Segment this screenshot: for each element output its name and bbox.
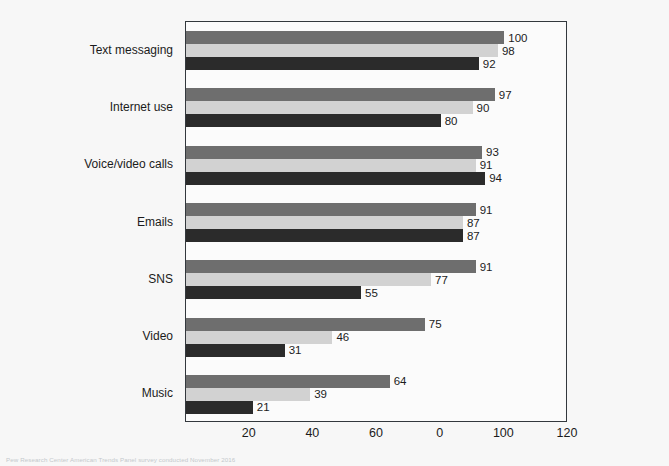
bar-value-label: 75 bbox=[425, 318, 442, 330]
bar-value-label: 21 bbox=[253, 401, 270, 413]
bar-value-label: 98 bbox=[498, 45, 515, 57]
bar bbox=[186, 401, 253, 414]
bar-value-label: 90 bbox=[473, 102, 490, 114]
x-axis-tick-label: 120 bbox=[557, 426, 578, 440]
bar bbox=[186, 273, 431, 286]
chart-footnote: Pew Research Center American Trends Pane… bbox=[6, 456, 235, 463]
bar bbox=[186, 88, 495, 101]
bar-value-label: 77 bbox=[431, 274, 448, 286]
bar-value-label: 80 bbox=[441, 115, 458, 127]
bar bbox=[186, 344, 285, 357]
bar bbox=[186, 203, 476, 216]
bar bbox=[186, 260, 476, 273]
bar bbox=[186, 229, 463, 242]
x-axis-tick-label: 60 bbox=[369, 426, 383, 440]
bar bbox=[186, 31, 504, 44]
bar-row: 39 bbox=[186, 388, 568, 401]
bar bbox=[186, 146, 482, 159]
bar-row: 55 bbox=[186, 286, 568, 299]
x-axis-tick-label: 100 bbox=[493, 426, 514, 440]
category-label: SNS bbox=[148, 272, 173, 286]
category-label: Voice/video calls bbox=[84, 157, 173, 171]
bar-value-label: 91 bbox=[476, 204, 493, 216]
bar bbox=[186, 114, 441, 127]
bar-row: 91 bbox=[186, 260, 568, 273]
bar-row: 97 bbox=[186, 88, 568, 101]
x-axis-tick-label: 20 bbox=[242, 426, 256, 440]
bar-value-label: 46 bbox=[332, 331, 349, 343]
bar-row: 31 bbox=[186, 344, 568, 357]
bar-value-label: 55 bbox=[361, 287, 378, 299]
bar-row: 46 bbox=[186, 331, 568, 344]
category-label: Emails bbox=[137, 215, 173, 229]
value-axis: 2040600100120 bbox=[185, 424, 567, 446]
bar-value-label: 64 bbox=[390, 375, 407, 387]
category-label: Music bbox=[142, 386, 173, 400]
bar-value-label: 94 bbox=[485, 172, 502, 184]
chart-figure: Text messagingInternet useVoice/video ca… bbox=[0, 0, 669, 466]
bar bbox=[186, 44, 498, 57]
x-axis-tick-label: 40 bbox=[305, 426, 319, 440]
bar bbox=[186, 216, 463, 229]
bar-row: 91 bbox=[186, 203, 568, 216]
bar-value-label: 91 bbox=[476, 261, 493, 273]
bar-row: 75 bbox=[186, 318, 568, 331]
bar-row: 92 bbox=[186, 57, 568, 70]
category-label: Internet use bbox=[110, 100, 173, 114]
bar bbox=[186, 375, 390, 388]
category-label: Text messaging bbox=[90, 43, 173, 57]
bar-row: 91 bbox=[186, 159, 568, 172]
bar bbox=[186, 57, 479, 70]
bar-value-label: 100 bbox=[504, 32, 527, 44]
bar bbox=[186, 286, 361, 299]
bar-row: 80 bbox=[186, 114, 568, 127]
bar bbox=[186, 331, 332, 344]
bar bbox=[186, 318, 425, 331]
bar-value-label: 31 bbox=[285, 344, 302, 356]
bar-value-label: 97 bbox=[495, 89, 512, 101]
bar-row: 90 bbox=[186, 101, 568, 114]
bar-row: 64 bbox=[186, 375, 568, 388]
bar-row: 98 bbox=[186, 44, 568, 57]
bar-row: 87 bbox=[186, 216, 568, 229]
bar bbox=[186, 172, 485, 185]
plot-area: 1009892979080939194918787917755754631643… bbox=[185, 21, 567, 422]
category-axis-labels: Text messagingInternet useVoice/video ca… bbox=[0, 21, 179, 422]
bar-row: 87 bbox=[186, 229, 568, 242]
bar-row: 21 bbox=[186, 401, 568, 414]
bar-value-label: 87 bbox=[463, 230, 480, 242]
bar-value-label: 92 bbox=[479, 58, 496, 70]
bar-value-label: 87 bbox=[463, 217, 480, 229]
bar-row: 94 bbox=[186, 172, 568, 185]
x-axis-tick-label: 0 bbox=[436, 426, 443, 440]
category-label: Video bbox=[143, 329, 173, 343]
bar-row: 100 bbox=[186, 31, 568, 44]
bar-value-label: 91 bbox=[476, 159, 493, 171]
bar bbox=[186, 388, 310, 401]
bar-value-label: 39 bbox=[310, 388, 327, 400]
bar-row: 77 bbox=[186, 273, 568, 286]
bar-value-label: 93 bbox=[482, 146, 499, 158]
bar bbox=[186, 159, 476, 172]
bar bbox=[186, 101, 473, 114]
bar-row: 93 bbox=[186, 146, 568, 159]
